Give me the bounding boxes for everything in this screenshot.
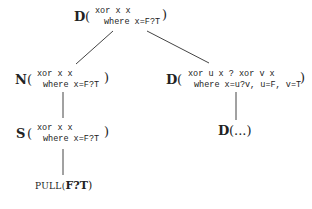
right-child-ellipsis: (...): [229, 123, 252, 138]
tree-edges: [0, 0, 312, 209]
root-expr-line2: where x=F?T: [104, 17, 160, 27]
right-open-paren: (: [177, 72, 182, 87]
left-child-label: S: [16, 126, 25, 141]
left-close-paren: ): [104, 70, 109, 85]
root-label: D: [74, 9, 85, 24]
root-open-paren: (: [85, 9, 90, 24]
root-expr-line1: xor x x: [95, 6, 131, 16]
right-child-label: D: [218, 123, 229, 138]
left-expr-line1: xor x x: [37, 69, 73, 79]
left-child-close-paren: ): [104, 124, 109, 139]
left-child-expr-line1: xor x x: [37, 123, 73, 133]
right-expr-line2: where x=u?v, u=F, v=T: [194, 80, 301, 90]
edge-root-left: [76, 31, 113, 64]
left-child-expr-line2: where x=F?T: [43, 134, 99, 144]
right-close-paren: ): [300, 70, 305, 85]
root-close-paren: ): [162, 7, 167, 22]
right-label: D: [166, 72, 177, 87]
left-open-paren: (: [27, 72, 32, 87]
left-child-open-paren: (: [27, 126, 32, 141]
pull-prefix: PULL(: [35, 181, 65, 191]
edge-root-right: [147, 31, 209, 63]
pull-value: F?T: [65, 179, 87, 192]
left-expr-line2: where x=F?T: [43, 80, 99, 90]
right-expr-line1: xor u x ? xor v x: [188, 69, 275, 79]
pull-leaf: PULL(F?T): [35, 179, 92, 192]
pull-suffix: ): [88, 179, 92, 192]
left-label: N: [15, 72, 27, 87]
